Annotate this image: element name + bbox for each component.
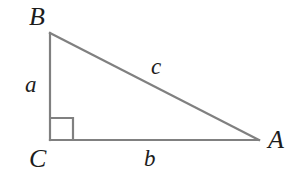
right-triangle-figure: B C A a b c <box>0 0 302 175</box>
side-c-line <box>50 33 259 140</box>
side-label-a: a <box>25 73 37 96</box>
side-label-b: b <box>144 147 156 170</box>
vertex-label-b: B <box>29 4 45 30</box>
right-angle-marker-icon <box>50 118 73 140</box>
vertex-label-c: C <box>29 146 46 172</box>
side-label-c: c <box>151 55 161 78</box>
vertex-label-a: A <box>268 127 284 153</box>
